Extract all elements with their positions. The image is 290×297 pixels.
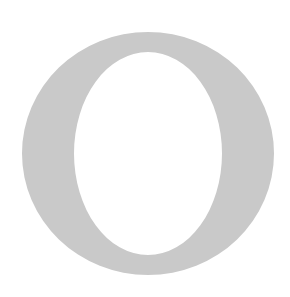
letter-o-shape xyxy=(22,32,274,275)
letter-o-glyph xyxy=(0,0,290,297)
letter-canvas: O xyxy=(0,0,290,297)
